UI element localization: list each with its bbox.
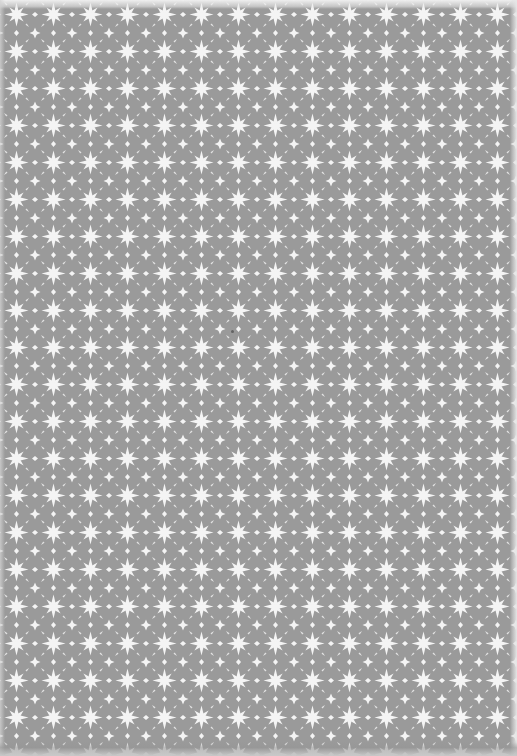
dust-speck (231, 330, 234, 333)
right-paper-edge (510, 0, 517, 756)
patterned-paper-sheet (0, 0, 517, 756)
bottom-paper-shading (0, 742, 517, 756)
star-lattice-pattern (0, 0, 517, 756)
top-paper-edge (0, 0, 517, 9)
left-paper-edge (0, 0, 5, 756)
